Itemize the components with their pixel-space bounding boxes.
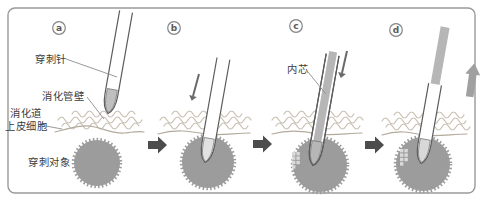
label-epithelium-line2: 上皮细胞 bbox=[5, 120, 47, 132]
label-stylet: 内芯 bbox=[287, 63, 308, 75]
target-cell-mass bbox=[74, 140, 120, 186]
label-puncture-needle: 穿刺针 bbox=[35, 53, 67, 65]
label-epithelium-line1: 消化道 bbox=[10, 107, 42, 119]
label-puncture-target: 穿刺对象 bbox=[28, 156, 70, 168]
panel-badge-letter: d bbox=[393, 25, 399, 35]
panel-badge-letter: b bbox=[171, 23, 178, 33]
diagram-figure: a 穿刺针 消化管壁 消化道 上皮细胞 穿刺对象 b bbox=[0, 0, 483, 202]
panel-badge-letter: a bbox=[56, 23, 62, 33]
panel-badge-letter: c bbox=[293, 21, 298, 31]
diagram-canvas: a 穿刺针 消化管壁 消化道 上皮细胞 穿刺对象 b bbox=[0, 0, 483, 202]
label-digestive-wall: 消化管壁 bbox=[42, 90, 84, 102]
